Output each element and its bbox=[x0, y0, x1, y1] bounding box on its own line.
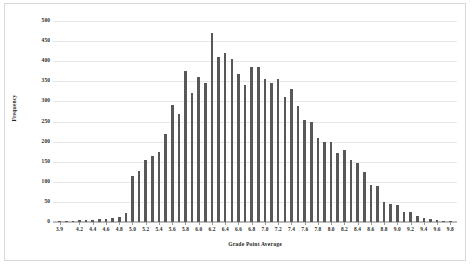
x-tick-mark bbox=[146, 222, 147, 225]
x-tick-label: 9.8 bbox=[439, 227, 461, 232]
chart-figure: 050100150200250300350400450500 3.94.24.4… bbox=[0, 0, 474, 272]
bar bbox=[303, 120, 306, 223]
bar bbox=[376, 186, 379, 222]
bar bbox=[310, 122, 313, 222]
y-tick-label: 0 bbox=[4, 219, 50, 224]
x-tick-mark bbox=[252, 222, 253, 225]
bar bbox=[336, 153, 339, 222]
bar bbox=[237, 74, 240, 222]
bar bbox=[164, 134, 167, 222]
histogram-bars bbox=[53, 21, 457, 222]
x-tick-mark bbox=[437, 222, 438, 225]
x-tick-mark bbox=[318, 222, 319, 225]
bar bbox=[389, 204, 392, 222]
x-tick-mark bbox=[265, 222, 266, 225]
x-tick-mark bbox=[450, 222, 451, 225]
bar bbox=[191, 93, 194, 222]
bar bbox=[356, 163, 359, 222]
bar bbox=[231, 59, 234, 222]
bar bbox=[138, 171, 141, 222]
bar bbox=[217, 57, 220, 222]
bar bbox=[184, 71, 187, 222]
bar bbox=[144, 160, 147, 222]
bar bbox=[284, 97, 287, 222]
y-tick-label: 50 bbox=[4, 199, 50, 204]
bar bbox=[317, 138, 320, 222]
bar bbox=[211, 33, 214, 222]
bar bbox=[178, 114, 181, 222]
x-tick-mark bbox=[225, 222, 226, 225]
x-tick-mark bbox=[159, 222, 160, 225]
bar bbox=[244, 85, 247, 222]
x-axis-title: Grade Point Average bbox=[53, 241, 457, 247]
bar bbox=[250, 67, 253, 222]
x-tick-mark bbox=[185, 222, 186, 225]
x-tick-mark bbox=[424, 222, 425, 225]
y-tick-label: 450 bbox=[4, 38, 50, 43]
x-tick-mark bbox=[172, 222, 173, 225]
x-axis-tick-labels: 3.94.24.44.64.85.05.25.45.65.86.06.26.46… bbox=[53, 227, 457, 237]
bar bbox=[343, 150, 346, 222]
bar bbox=[403, 212, 406, 222]
x-tick-mark bbox=[397, 222, 398, 225]
y-tick-label: 200 bbox=[4, 139, 50, 144]
y-tick-label: 500 bbox=[4, 18, 50, 23]
bar bbox=[151, 156, 154, 222]
x-tick-mark bbox=[331, 222, 332, 225]
x-tick-mark bbox=[119, 222, 120, 225]
bar bbox=[224, 53, 227, 222]
bar bbox=[171, 105, 174, 222]
y-axis-tick-labels: 050100150200250300350400450500 bbox=[0, 21, 50, 222]
bar bbox=[363, 172, 366, 222]
y-tick-label: 400 bbox=[4, 58, 50, 63]
bar bbox=[204, 83, 207, 222]
bar bbox=[330, 142, 333, 222]
x-tick-mark bbox=[278, 222, 279, 225]
x-tick-mark bbox=[291, 222, 292, 225]
bar bbox=[383, 202, 386, 222]
x-tick-mark bbox=[411, 222, 412, 225]
bar bbox=[125, 213, 128, 222]
x-tick-mark bbox=[60, 222, 61, 225]
x-tick-mark bbox=[132, 222, 133, 225]
x-tick-mark bbox=[371, 222, 372, 225]
bar bbox=[270, 83, 273, 222]
bar bbox=[290, 89, 293, 222]
x-tick-mark bbox=[305, 222, 306, 225]
bar bbox=[370, 185, 373, 222]
x-tick-mark bbox=[93, 222, 94, 225]
x-tick-mark bbox=[358, 222, 359, 225]
x-tick-mark bbox=[344, 222, 345, 225]
y-tick-label: 150 bbox=[4, 159, 50, 164]
bar bbox=[297, 106, 300, 222]
x-tick-mark bbox=[212, 222, 213, 225]
x-tick-label: 3.9 bbox=[49, 227, 71, 232]
bar bbox=[257, 67, 260, 222]
x-tick-mark bbox=[79, 222, 80, 225]
bar bbox=[197, 77, 200, 222]
bar bbox=[396, 205, 399, 222]
bar bbox=[323, 142, 326, 222]
x-tick-mark bbox=[238, 222, 239, 225]
y-axis-title: Frequency bbox=[11, 78, 17, 138]
x-tick-mark bbox=[384, 222, 385, 225]
bar bbox=[158, 152, 161, 222]
x-tick-mark bbox=[106, 222, 107, 225]
x-tick-mark bbox=[199, 222, 200, 225]
bar bbox=[264, 79, 267, 222]
y-tick-label: 100 bbox=[4, 179, 50, 184]
bar bbox=[277, 79, 280, 222]
bar bbox=[409, 212, 412, 222]
bar bbox=[131, 176, 134, 222]
bar bbox=[350, 160, 353, 222]
